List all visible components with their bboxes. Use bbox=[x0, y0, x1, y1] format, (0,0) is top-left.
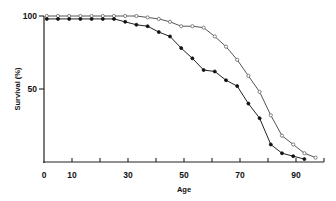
open-circle-marker bbox=[236, 58, 239, 61]
open-circle-marker bbox=[258, 90, 261, 93]
filled-circle-marker bbox=[258, 117, 261, 120]
open-circle-marker bbox=[292, 143, 295, 146]
filled-circle-marker bbox=[180, 47, 183, 50]
filled-circle-marker bbox=[191, 57, 194, 60]
filled-circle-marker bbox=[213, 70, 216, 73]
x-tick-label: 0 bbox=[42, 170, 47, 180]
x-tick-label: 70 bbox=[235, 170, 245, 180]
filled-circle-marker bbox=[57, 17, 60, 20]
open-circle-marker bbox=[157, 17, 160, 20]
open-circle-marker bbox=[168, 20, 171, 23]
x-tick-label: 50 bbox=[179, 170, 189, 180]
x-tick-label: 30 bbox=[123, 170, 133, 180]
filled-circle-marker bbox=[269, 143, 272, 146]
open-circle-marker bbox=[180, 25, 183, 28]
filled-circle-marker bbox=[169, 35, 172, 38]
open-circle-marker bbox=[146, 16, 149, 19]
filled-circle-marker bbox=[45, 17, 48, 20]
series-line bbox=[47, 16, 316, 158]
filled-circle-marker bbox=[281, 152, 284, 155]
filled-circle-marker bbox=[157, 31, 160, 34]
open-circle-marker bbox=[135, 14, 138, 17]
filled-circle-marker bbox=[101, 17, 104, 20]
series-filled-circles bbox=[45, 17, 306, 160]
filled-circle-marker bbox=[292, 155, 295, 158]
y-tick-label: 50 bbox=[28, 84, 38, 94]
filled-circle-marker bbox=[113, 17, 116, 20]
filled-circle-marker bbox=[303, 158, 306, 161]
open-circle-marker bbox=[191, 25, 194, 28]
open-circle-marker bbox=[213, 35, 216, 38]
filled-circle-marker bbox=[202, 69, 205, 72]
filled-circle-marker bbox=[247, 102, 250, 105]
open-circle-marker bbox=[202, 26, 205, 29]
open-circle-marker bbox=[124, 14, 127, 17]
filled-circle-marker bbox=[135, 23, 138, 26]
open-circle-marker bbox=[303, 152, 306, 155]
open-circle-marker bbox=[314, 156, 317, 159]
x-axis-title: Age bbox=[177, 185, 191, 194]
series-line bbox=[47, 19, 305, 159]
open-circle-marker bbox=[224, 45, 227, 48]
open-circle-marker bbox=[269, 114, 272, 117]
filled-circle-marker bbox=[124, 20, 127, 23]
plot-series bbox=[45, 14, 317, 160]
filled-circle-marker bbox=[236, 85, 239, 88]
x-tick-label: 90 bbox=[291, 170, 301, 180]
y-tick-label: 100 bbox=[23, 11, 37, 21]
filled-circle-marker bbox=[146, 25, 149, 28]
filled-circle-marker bbox=[79, 17, 82, 20]
filled-circle-marker bbox=[225, 79, 228, 82]
series-open-circles bbox=[45, 14, 317, 159]
open-circle-marker bbox=[247, 74, 250, 77]
axes: 0103050709050100 bbox=[23, 11, 324, 180]
survival-chart: 0103050709050100 Age Survival (%) bbox=[0, 0, 336, 201]
open-circle-marker bbox=[280, 134, 283, 137]
x-tick-label: 10 bbox=[67, 170, 77, 180]
filled-circle-marker bbox=[90, 17, 93, 20]
y-axis-title: Survival (%) bbox=[13, 67, 22, 110]
filled-circle-marker bbox=[68, 17, 71, 20]
